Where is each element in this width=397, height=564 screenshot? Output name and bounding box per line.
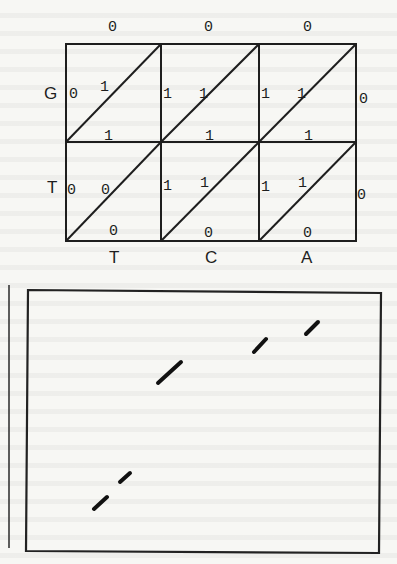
column-label-a: A bbox=[301, 248, 313, 267]
dot-plot-segments bbox=[94, 322, 318, 509]
figures-canvas: 0 0 0 G T 0 1 1 1 1 1 1 1 1 0 0 0 0 1 1 … bbox=[0, 0, 397, 564]
cell-left-weight: 1 bbox=[261, 179, 270, 196]
cell-bottom-weight: 1 bbox=[205, 128, 214, 145]
diagonal-segment bbox=[94, 497, 107, 509]
row-label-g: G bbox=[44, 84, 57, 103]
cell-left-weight: 1 bbox=[261, 86, 270, 103]
cell-bottom-weight: 0 bbox=[204, 225, 213, 242]
row-label-t: T bbox=[47, 178, 57, 197]
diagonal-segment bbox=[254, 339, 266, 352]
cell-right-weight: 0 bbox=[359, 91, 368, 108]
cell-right-weight: 0 bbox=[357, 187, 366, 204]
cell-left-weight: 0 bbox=[69, 86, 78, 103]
document-page: 0 0 0 G T 0 1 1 1 1 1 1 1 1 0 0 0 0 1 1 … bbox=[0, 0, 397, 564]
column-label-c: C bbox=[205, 248, 217, 267]
cell-left-weight: 0 bbox=[67, 182, 76, 199]
cell-diag-weight: 0 bbox=[101, 182, 110, 199]
top-edge-weight: 0 bbox=[108, 19, 117, 36]
column-label-t: T bbox=[109, 248, 119, 267]
cell-bottom-weight: 0 bbox=[109, 223, 118, 240]
diagonal-segment bbox=[158, 362, 181, 383]
cell-diag-weight: 1 bbox=[200, 175, 209, 192]
top-edge-weight: 0 bbox=[303, 19, 312, 36]
cell-diag-weight: 1 bbox=[100, 79, 109, 96]
cell-left-weight: 1 bbox=[163, 178, 172, 195]
diagonal-segment bbox=[306, 322, 318, 334]
cell-bottom-weight: 1 bbox=[104, 128, 113, 145]
grid-diagonal bbox=[66, 44, 161, 142]
cell-left-weight: 1 bbox=[163, 86, 172, 103]
cell-diag-weight: 1 bbox=[298, 175, 307, 192]
cell-bottom-weight: 1 bbox=[304, 128, 313, 145]
cell-diag-weight: 1 bbox=[297, 86, 306, 103]
cell-diag-weight: 1 bbox=[199, 86, 208, 103]
dot-plot-box bbox=[26, 290, 381, 553]
top-edge-weight: 0 bbox=[204, 19, 213, 36]
diagonal-segment bbox=[120, 473, 130, 482]
cell-bottom-weight: 0 bbox=[303, 225, 312, 242]
